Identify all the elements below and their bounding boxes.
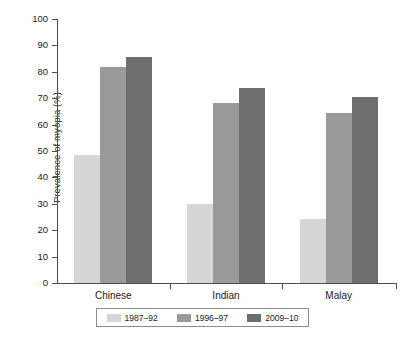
y-tick-label: 0 [43, 277, 48, 288]
legend-swatch [107, 314, 121, 322]
legend-item: 1996–97 [177, 313, 228, 323]
x-axis-separator [170, 283, 171, 289]
y-tick-mark [52, 98, 57, 99]
bar [126, 57, 152, 284]
y-tick-mark [52, 230, 57, 231]
plot-area [57, 19, 395, 283]
y-tick-label: 90 [37, 39, 48, 50]
y-tick-label: 20 [37, 224, 48, 235]
y-tick-label: 80 [37, 66, 48, 77]
y-tick-label: 70 [37, 92, 48, 103]
legend-swatch [247, 314, 261, 322]
y-tick-label: 100 [32, 13, 48, 24]
legend-label: 1996–97 [195, 313, 228, 323]
y-tick-mark [52, 45, 57, 46]
bar [352, 97, 378, 283]
bar [187, 204, 213, 283]
y-tick-mark [52, 151, 57, 152]
legend-label: 2009–10 [265, 313, 298, 323]
y-tick-label: 60 [37, 119, 48, 130]
y-tick-mark [52, 19, 57, 20]
x-axis-line [57, 283, 397, 284]
y-tick-label: 10 [37, 251, 48, 262]
y-tick-mark [52, 72, 57, 73]
y-tick-mark [52, 257, 57, 258]
chart-legend: 1987–921996–972009–10 [96, 308, 309, 327]
y-tick-mark [52, 283, 57, 284]
x-axis-separator [396, 283, 397, 289]
x-axis-label: Indian [170, 290, 283, 301]
y-tick-label: 50 [37, 145, 48, 156]
y-tick-mark [52, 125, 57, 126]
x-axis-separator [282, 283, 283, 289]
legend-item: 2009–10 [247, 313, 298, 323]
y-tick-mark [52, 204, 57, 205]
bar [326, 113, 352, 283]
bar-chart: Prevalence of myopia (%) 100908070605040… [0, 0, 405, 341]
y-tick-mark [52, 177, 57, 178]
legend-item: 1987–92 [107, 313, 158, 323]
x-axis-label: Malay [282, 290, 395, 301]
x-axis-label: Chinese [57, 290, 170, 301]
bar [239, 88, 265, 283]
bar [74, 155, 100, 283]
bar [300, 219, 326, 283]
bar [213, 103, 239, 283]
y-tick-label: 40 [37, 171, 48, 182]
y-tick-label: 30 [37, 198, 48, 209]
legend-swatch [177, 314, 191, 322]
legend-label: 1987–92 [125, 313, 158, 323]
bar [100, 67, 126, 283]
